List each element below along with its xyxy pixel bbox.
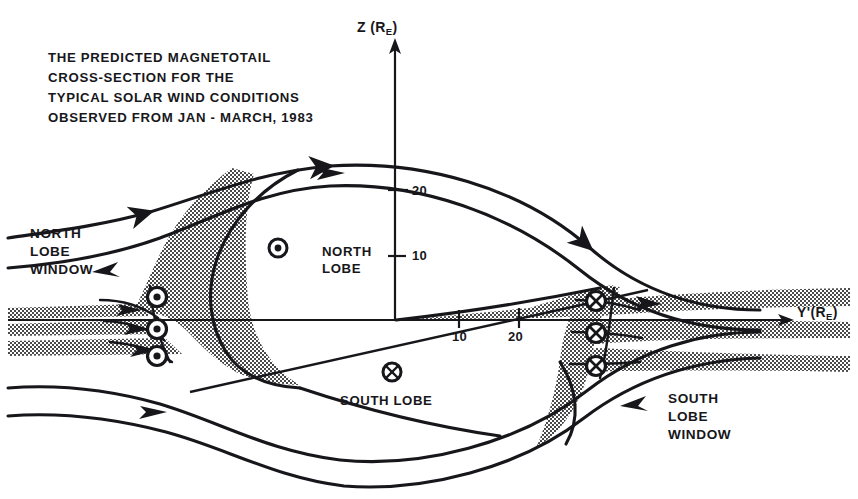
arrow-south-right [620, 396, 648, 411]
arrow-north-left [92, 262, 120, 277]
magnetotail-cross-section-figure: THE PREDICTED MAGNETOTAIL CROSS-SECTION … [0, 0, 858, 499]
arrow-north-top [317, 167, 345, 180]
field-symbol-into-page-right-3 [587, 357, 606, 376]
field-symbol-into-page-south-lobe [383, 363, 401, 381]
right-sheet-band-lower [588, 348, 850, 372]
y-axis-label-symbol: Y' [797, 304, 810, 320]
y-axis-label-unit-open: (R [810, 304, 826, 320]
field-symbol-into-page-right-1 [587, 292, 606, 311]
field-symbol-out-of-page-left-3 [148, 347, 167, 366]
z-axis-tick-label-20: 20 [412, 182, 427, 199]
field-symbol-out-of-page-north-lobe [269, 239, 287, 257]
y-axis-label: Y'(RE) [797, 303, 838, 324]
label-south-lobe: SOUTH LOBE [340, 392, 432, 409]
y-axis-label-subscript: E [826, 311, 833, 322]
label-north-lobe: NORTH LOBE [322, 243, 372, 278]
field-symbol-out-of-page-left-1 [148, 288, 167, 307]
y-axis-label-unit-close: ) [833, 304, 838, 320]
y-axis-tick-label-10: 10 [452, 328, 467, 345]
label-south-lobe-window: SOUTH LOBE WINDOW [668, 390, 731, 444]
z-axis-label-unit-open: (R [370, 19, 386, 35]
z-axis-label-subscript: E [386, 26, 393, 37]
z-axis-label: Z (RE) [357, 18, 398, 39]
y-axis-tick-label-20: 20 [508, 328, 523, 345]
z-axis-label-symbol: Z [357, 19, 366, 35]
z-axis-label-unit-close: ) [393, 19, 398, 35]
field-symbol-into-page-right-2 [587, 324, 606, 343]
arrow-south-left [139, 406, 167, 419]
label-north-lobe-window: NORTH LOBE WINDOW [30, 225, 93, 279]
figure-caption: THE PREDICTED MAGNETOTAIL CROSS-SECTION … [48, 48, 313, 128]
z-axis-tick-label-10: 10 [412, 247, 427, 264]
field-symbol-out-of-page-left-2 [148, 320, 167, 339]
